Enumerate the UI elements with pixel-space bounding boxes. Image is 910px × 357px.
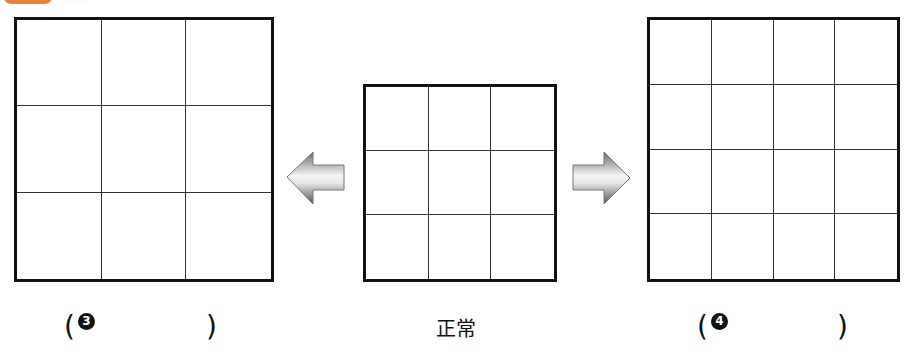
circled-number-4-icon: 4 bbox=[711, 313, 728, 330]
grid-cell bbox=[650, 150, 712, 215]
grid-cell bbox=[835, 150, 897, 215]
grid-cell bbox=[366, 151, 429, 215]
caption-blank-3: ( 3 ) bbox=[64, 310, 224, 344]
arrow-left-icon bbox=[286, 151, 346, 206]
grid-cell bbox=[186, 193, 271, 279]
grid-cell bbox=[712, 20, 774, 85]
grid-cell bbox=[366, 215, 429, 279]
grid-cell bbox=[429, 215, 492, 279]
grid-cell bbox=[835, 214, 897, 279]
arrow-right-icon bbox=[571, 151, 631, 206]
grid-reduced-4x4 bbox=[647, 17, 900, 282]
grid-cell bbox=[835, 20, 897, 85]
grid-cell bbox=[186, 20, 271, 106]
grid-cell bbox=[491, 87, 554, 151]
grid-normal-3x3 bbox=[363, 84, 557, 282]
grid-cell bbox=[835, 85, 897, 150]
grid-enlarged-3x3 bbox=[14, 17, 274, 282]
close-paren: ) bbox=[206, 310, 217, 344]
grid-cell bbox=[491, 151, 554, 215]
grid-cell bbox=[17, 106, 102, 192]
grid-cell bbox=[712, 85, 774, 150]
grid-cell bbox=[491, 215, 554, 279]
caption-blank-4: ( 4 ) bbox=[697, 310, 857, 344]
grid-cell bbox=[774, 20, 836, 85]
grid-cell bbox=[17, 20, 102, 106]
grid-cell bbox=[366, 87, 429, 151]
grid-cell bbox=[650, 20, 712, 85]
grid-cell bbox=[186, 106, 271, 192]
open-paren: ( bbox=[64, 310, 75, 344]
grid-cell bbox=[429, 87, 492, 151]
grid-cell bbox=[712, 150, 774, 215]
grid-cell bbox=[102, 106, 187, 192]
open-paren: ( bbox=[697, 310, 708, 344]
grid-cell bbox=[712, 214, 774, 279]
grid-cell bbox=[774, 85, 836, 150]
grid-cell bbox=[102, 193, 187, 279]
grid-cell bbox=[650, 85, 712, 150]
grid-cell bbox=[17, 193, 102, 279]
grid-cell bbox=[650, 214, 712, 279]
grid-cell bbox=[429, 151, 492, 215]
close-paren: ) bbox=[837, 310, 848, 344]
grid-cell bbox=[774, 214, 836, 279]
section-title: …… bbox=[64, 0, 254, 2]
circled-number-3-icon: 3 bbox=[78, 313, 95, 330]
grid-cell bbox=[102, 20, 187, 106]
caption-normal: 正常 bbox=[436, 316, 476, 350]
section-badge bbox=[4, 0, 52, 4]
grid-cell bbox=[774, 150, 836, 215]
